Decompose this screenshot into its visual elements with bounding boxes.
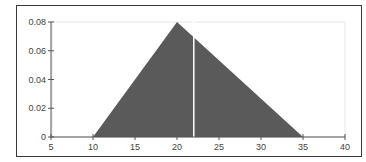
y-tick-label: 0.08: [28, 17, 46, 27]
y-tick-label: 0.04: [28, 75, 46, 85]
x-tick-label: 40: [340, 142, 350, 152]
y-axis: 00.020.040.060.08: [28, 17, 54, 142]
x-tick-label: 25: [214, 142, 224, 152]
y-tick-label: 0.02: [28, 103, 46, 113]
x-tick-label: 20: [172, 142, 182, 152]
x-tick-label: 5: [48, 142, 53, 152]
x-tick-label: 30: [256, 142, 266, 152]
x-axis: 510152025303540: [48, 134, 350, 152]
x-tick-label: 35: [298, 142, 308, 152]
y-tick-label: 0: [41, 132, 46, 142]
y-tick-label: 0.06: [28, 46, 46, 56]
x-tick-label: 15: [130, 142, 140, 152]
triangular-distribution-chart: 00.020.040.060.08 510152025303540: [0, 0, 366, 162]
distribution-area: [93, 22, 303, 137]
x-tick-label: 10: [88, 142, 98, 152]
